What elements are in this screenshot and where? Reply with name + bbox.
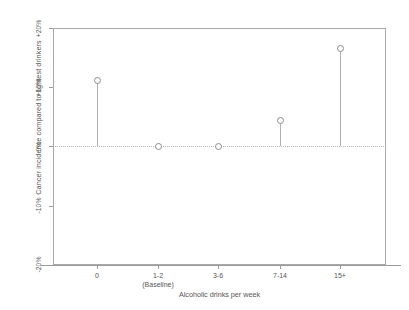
stem-line [97,80,98,146]
x-tick-label-0: 0 [67,272,127,279]
x-axis-line [41,265,401,266]
x-tick-label-3-6: 3-6 [188,272,248,279]
x-tick-mark [158,265,159,269]
x-tick-mark [218,265,219,269]
data-point-marker-1-2[interactable] [155,143,162,150]
x-tick-mark [340,265,341,269]
x-tick-label-15p: 15+ [310,272,370,279]
y-tick-label-20p: +20% [35,12,42,46]
stem-line [340,48,341,146]
data-point-marker-0[interactable] [94,77,101,84]
x-tick-label-7-14: 7-14 [250,272,310,279]
x-tick-label-1-2: 1-2 [128,272,188,279]
x-tick-mark [97,265,98,269]
chart-figure: Cancer incidence compared to lightest dr… [0,0,409,310]
data-point-marker-15p[interactable] [337,45,344,52]
x-tick-mark [280,265,281,269]
y-tick-label-n10p: -10% [35,189,42,223]
x-axis-title: Alcoholic drinks per week [53,290,386,299]
x-tick-sublabel-baseline: (Baseline) [128,281,188,288]
data-point-marker-7-14[interactable] [277,117,284,124]
y-tick-label-10p: +10% [35,71,42,105]
data-point-marker-3-6[interactable] [215,143,222,150]
y-tick-label-0: 0% [35,130,42,164]
